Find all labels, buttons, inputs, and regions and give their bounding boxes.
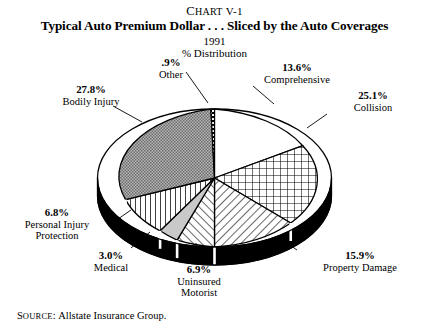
source-text: Allstate Insurance Group. (58, 310, 166, 321)
slice-label-bodily-injury: 27.8% Bodily Injury (36, 84, 146, 107)
slice-label-uninsured-name2: Motorist (160, 287, 238, 299)
leader-collision (307, 114, 327, 128)
slice-label-comprehensive: 13.6% Comprehensive (243, 62, 351, 85)
leader-bodily-injury (113, 106, 142, 122)
slice-label-pip-name1: Personal Injury (2, 219, 112, 231)
slice-label-medical-pct: 3.0% (76, 250, 146, 262)
slice-label-other-name: Other (140, 69, 202, 81)
slice-label-property-damage: 15.9% Property Damage (300, 250, 420, 273)
slice-label-other: .9% Other (140, 57, 202, 80)
slice-label-pip-pct: 6.8% (2, 207, 112, 219)
slice-label-property-pct: 15.9% (300, 250, 420, 262)
slice-label-medical: 3.0% Medical (76, 250, 146, 273)
slice-label-medical-name: Medical (76, 262, 146, 274)
slice-label-uninsured-motorist: 6.9% Uninsured Motorist (160, 264, 238, 299)
slice-label-bodily-injury-name: Bodily Injury (36, 96, 146, 108)
slice-label-personal-injury-protection: 6.8% Personal Injury Protection (2, 207, 112, 242)
slice-label-collision-name: Collision (330, 102, 416, 114)
slice-label-comprehensive-name: Comprehensive (243, 74, 351, 86)
slice-label-collision-pct: 25.1% (330, 90, 416, 102)
source-label-rest: OURCE (23, 311, 53, 321)
slice-label-comprehensive-pct: 13.6% (243, 62, 351, 74)
slice-label-uninsured-pct: 6.9% (160, 264, 238, 276)
leader-comprehensive (253, 86, 274, 104)
slice-label-uninsured-name1: Uninsured (160, 276, 238, 288)
source-label-colon: : (53, 310, 56, 321)
slice-label-pip-name2: Protection (2, 230, 112, 242)
slice-label-collision: 25.1% Collision (330, 90, 416, 113)
source-note: SOURCE: Allstate Insurance Group. (17, 310, 166, 321)
slice-label-property-name: Property Damage (300, 262, 420, 274)
pie-slices (119, 109, 318, 247)
slice-label-bodily-injury-pct: 27.8% (36, 84, 146, 96)
chart-page: CHART V-1 Typical Auto Premium Dollar . … (0, 0, 429, 335)
slice-label-other-pct: .9% (140, 57, 202, 69)
